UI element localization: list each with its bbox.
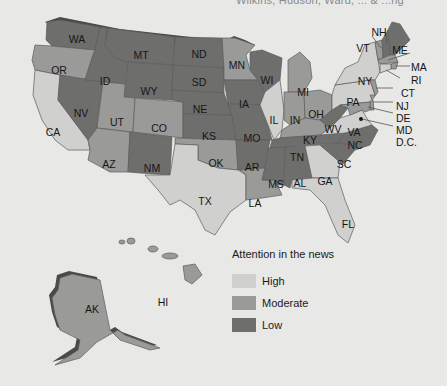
label-ID: ID xyxy=(100,75,111,87)
label-AZ: AZ xyxy=(102,158,116,170)
label-NH: NH xyxy=(371,26,386,38)
label-IN: IN xyxy=(290,114,301,126)
label-HI: HI xyxy=(158,296,169,308)
label-MT: MT xyxy=(133,49,149,61)
legend-item-moderate: Moderate xyxy=(232,292,334,314)
hawaii-group xyxy=(119,238,202,284)
state-AK[interactable] xyxy=(52,274,160,365)
label-MO: MO xyxy=(244,132,261,144)
label-MN: MN xyxy=(229,59,245,71)
label-AR: AR xyxy=(245,161,260,173)
label-DE: DE xyxy=(396,112,411,124)
label-IL: IL xyxy=(270,114,279,126)
label-IA: IA xyxy=(239,98,249,110)
legend-label-low: Low xyxy=(262,319,282,331)
label-WV: WV xyxy=(325,123,342,135)
legend-label-high: High xyxy=(262,275,285,287)
state-HI-island[interactable] xyxy=(162,253,178,259)
label-NJ: NJ xyxy=(396,100,409,112)
label-WA: WA xyxy=(69,33,86,45)
label-TX: TX xyxy=(198,195,211,207)
label-KY: KY xyxy=(303,134,317,146)
label-VT: VT xyxy=(356,42,370,54)
legend-swatch-low xyxy=(232,318,256,332)
leader-CT xyxy=(386,70,400,78)
legend-swatch-moderate xyxy=(232,296,256,310)
label-UT: UT xyxy=(110,116,125,128)
state-HI-island[interactable] xyxy=(148,246,158,252)
label-ND: ND xyxy=(191,48,207,60)
state-HI-big-island[interactable] xyxy=(183,264,202,284)
legend-title: Attention in the news xyxy=(232,248,334,260)
label-CT: CT xyxy=(401,87,416,99)
label-PA: PA xyxy=(346,96,359,108)
label-CO: CO xyxy=(151,122,167,134)
label-NM: NM xyxy=(144,162,160,174)
label-DC: D.C. xyxy=(396,136,417,148)
label-OR: OR xyxy=(51,64,67,76)
legend: Attention in the news High Moderate Low xyxy=(232,248,334,336)
legend-item-high: High xyxy=(232,270,334,292)
state-HI-island[interactable] xyxy=(127,238,135,244)
label-NE: NE xyxy=(193,103,208,115)
label-CA: CA xyxy=(46,126,61,138)
label-VA: VA xyxy=(347,126,360,138)
label-NY: NY xyxy=(358,75,373,87)
label-OH: OH xyxy=(308,108,324,120)
label-SC: SC xyxy=(337,158,352,170)
label-KS: KS xyxy=(202,130,216,142)
legend-swatch-high xyxy=(232,274,256,288)
state-HI-island[interactable] xyxy=(119,240,125,244)
label-WY: WY xyxy=(141,85,158,97)
label-MS: MS xyxy=(268,178,284,190)
label-OK: OK xyxy=(208,157,223,169)
label-MA: MA xyxy=(411,61,427,73)
label-AL: AL xyxy=(294,177,307,189)
label-WI: WI xyxy=(261,74,274,86)
label-NC: NC xyxy=(347,139,363,151)
label-LA: LA xyxy=(249,197,262,209)
us-choropleth-map: WA OR CA NV ID MT WY UT CO AZ NM ND SD N… xyxy=(0,0,447,386)
label-MI: MI xyxy=(297,86,309,98)
label-RI: RI xyxy=(411,74,422,86)
label-AK: AK xyxy=(85,303,99,315)
legend-item-low: Low xyxy=(232,314,334,336)
label-FL: FL xyxy=(342,218,354,230)
label-GA: GA xyxy=(317,175,332,187)
legend-label-moderate: Moderate xyxy=(262,297,308,309)
label-MD: MD xyxy=(396,124,413,136)
label-ME: ME xyxy=(392,44,408,56)
label-NV: NV xyxy=(74,107,89,119)
label-SD: SD xyxy=(192,76,207,88)
state-RI[interactable] xyxy=(391,62,398,69)
label-TN: TN xyxy=(290,151,304,163)
